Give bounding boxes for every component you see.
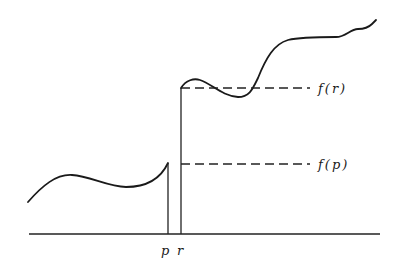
- label-f-p: f(p): [317, 157, 349, 172]
- label-f-r: f(r): [317, 81, 347, 96]
- curve-left-segment: [28, 163, 168, 202]
- function-jump-diagram: f(r) f(p) p r: [0, 0, 393, 278]
- label-r: r: [177, 243, 185, 258]
- label-p: p: [161, 243, 171, 258]
